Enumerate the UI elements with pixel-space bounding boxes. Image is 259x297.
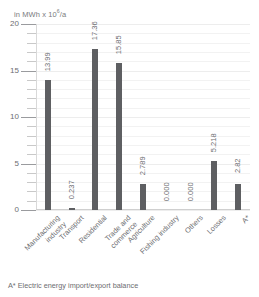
y-axis-tick <box>27 89 36 90</box>
unit-caption-suffix: /a <box>60 10 66 19</box>
y-axis-tick <box>27 61 36 62</box>
bar[interactable] <box>140 184 146 210</box>
chart-root: in MWh x 106/a 05101520 13.990.23717.361… <box>0 0 259 297</box>
y-axis-tick-label: 0 <box>15 206 19 214</box>
bar-value-label: 2.82 <box>234 159 242 174</box>
y-axis-tick <box>21 71 36 72</box>
bar-slot: 5.218 <box>202 24 226 210</box>
y-axis-tick-label: 20 <box>10 20 19 28</box>
y-axis-tick-label: 15 <box>10 67 19 75</box>
bar-value-label: 5.218 <box>211 134 219 153</box>
bar-series: 13.990.23717.3615.852.7890.0000.0005.218… <box>36 24 250 210</box>
bar-value-label: 15.85 <box>115 35 123 54</box>
bar-slot: 0.000 <box>155 24 179 210</box>
bar-slot: 0.237 <box>60 24 84 210</box>
y-axis-tick-label: 10 <box>10 113 19 121</box>
y-axis-tick <box>21 210 36 211</box>
y-axis-tick <box>21 164 36 165</box>
bar[interactable] <box>45 80 51 210</box>
bar-value-label: 17.36 <box>92 21 100 40</box>
bar-slot: 2.82 <box>226 24 250 210</box>
bar-value-label: 0.000 <box>187 182 195 201</box>
y-axis-tick <box>27 80 36 81</box>
bar[interactable] <box>69 208 75 210</box>
y-axis-tick <box>27 201 36 202</box>
gridline <box>36 210 250 211</box>
y-axis-tick <box>27 136 36 137</box>
bar-value-label: 0.237 <box>68 180 76 199</box>
y-axis-tick <box>21 24 36 25</box>
bar[interactable] <box>116 63 122 210</box>
bar[interactable] <box>235 184 241 210</box>
footnote: A* Electric energy import/export balance <box>8 281 138 290</box>
bar-slot: 13.99 <box>36 24 60 210</box>
y-axis-tick <box>27 108 36 109</box>
y-axis-tick-label: 5 <box>15 160 19 168</box>
bar[interactable] <box>92 49 98 210</box>
bar-value-label: 13.99 <box>44 52 52 71</box>
y-axis-unit-caption: in MWh x 106/a <box>14 8 66 19</box>
bar-slot: 2.789 <box>131 24 155 210</box>
bar-slot: 17.36 <box>84 24 108 210</box>
y-axis-tick <box>27 173 36 174</box>
y-axis-tick <box>27 126 36 127</box>
y-axis-tick <box>27 191 36 192</box>
y-axis-tick <box>27 182 36 183</box>
bar-slot: 15.85 <box>107 24 131 210</box>
category-axis-labels: Manufacturing industryTransportResidenti… <box>36 212 250 278</box>
y-axis-tick <box>27 43 36 44</box>
y-axis-tick <box>27 145 36 146</box>
bar-value-label: 2.789 <box>139 156 147 175</box>
bar-value-label: 0.000 <box>163 182 171 201</box>
unit-caption-text: in MWh x 10 <box>14 10 57 19</box>
bar-slot: 0.000 <box>179 24 203 210</box>
y-axis-tick <box>27 98 36 99</box>
y-axis-tick <box>27 154 36 155</box>
y-axis-tick <box>27 52 36 53</box>
y-axis-tick <box>27 33 36 34</box>
y-axis-tick <box>21 117 36 118</box>
bar[interactable] <box>211 161 217 210</box>
